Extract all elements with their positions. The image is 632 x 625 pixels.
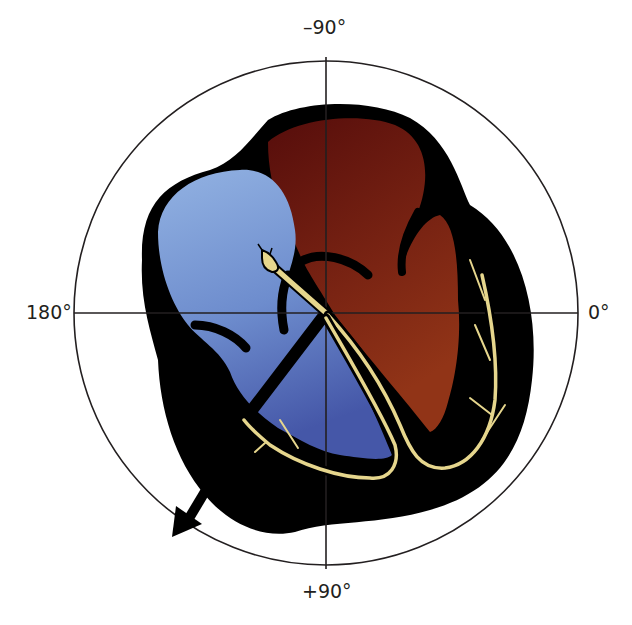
axis-label-minus-90: –90°	[303, 16, 346, 38]
diagram-canvas	[0, 0, 632, 625]
axis-label-0: 0°	[588, 301, 610, 323]
axis-label-180: 180°	[26, 301, 72, 323]
axis-label-plus-90: +90°	[302, 580, 352, 602]
electrical-axis-arrow	[172, 480, 212, 537]
heart-axis-diagram: –90° +90° 180° 0°	[0, 0, 632, 625]
